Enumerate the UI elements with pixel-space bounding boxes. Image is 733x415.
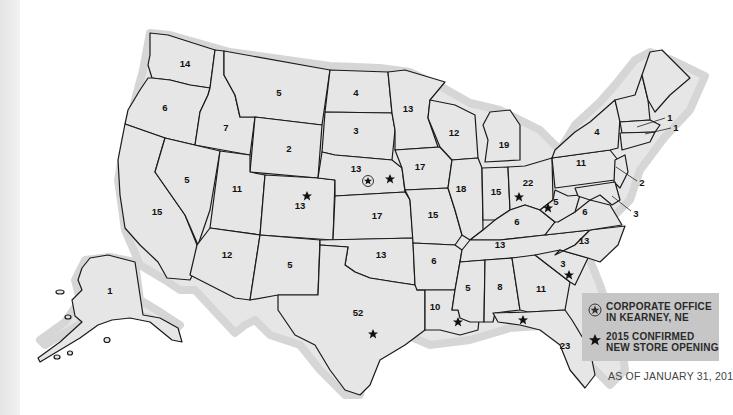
count-MI: 19 [499, 139, 510, 150]
count-KY: 6 [514, 216, 519, 227]
circled-star-icon [588, 303, 602, 317]
legend-corporate-office: CORPORATE OFFICE IN KEARNEY, NE [588, 301, 712, 323]
count-PA: 11 [576, 157, 587, 168]
legend-new-store: 2015 CONFIRMED NEW STORE OPENING [588, 331, 719, 353]
count-MN: 13 [403, 103, 414, 114]
count-WA: 14 [180, 58, 191, 69]
count-MS: 5 [465, 282, 471, 293]
count-OH: 22 [523, 177, 534, 188]
count-FL: 23 [560, 340, 571, 351]
star-icon [588, 333, 602, 347]
count-AZ: 12 [222, 249, 233, 260]
count-ND: 4 [353, 87, 359, 98]
count-OR: 6 [162, 102, 167, 113]
state-SD[interactable] [322, 112, 395, 160]
count-AK: 1 [107, 285, 113, 296]
map-legend: CORPORATE OFFICE IN KEARNEY, NE 2015 CON… [582, 293, 719, 361]
count-NM: 5 [287, 259, 293, 270]
count-CA: 15 [152, 206, 163, 217]
count-RI: 1 [673, 122, 679, 133]
count-CO: 13 [295, 200, 306, 211]
state-MI[interactable] [483, 110, 520, 162]
count-LA: 10 [430, 301, 441, 312]
count-WV: 5 [553, 196, 559, 207]
count-TN: 13 [495, 239, 506, 250]
count-UT: 11 [232, 183, 243, 194]
legend-corporate-office-label: CORPORATE OFFICE IN KEARNEY, NE [606, 301, 712, 323]
count-NY: 4 [594, 126, 600, 137]
count-NC: 13 [579, 235, 590, 246]
count-SD: 3 [353, 125, 358, 136]
count-IN: 15 [491, 186, 502, 197]
count-AL: 8 [497, 281, 502, 292]
as-of-date: AS OF JANUARY 31, 201 [608, 370, 733, 382]
count-OK: 13 [376, 249, 387, 260]
count-MO: 15 [428, 209, 439, 220]
count-VA: 6 [582, 206, 587, 217]
state-NY[interactable] [552, 100, 620, 158]
count-MD: 3 [633, 208, 638, 219]
count-NV: 5 [184, 174, 190, 185]
count-WY: 2 [286, 143, 291, 154]
state-AR[interactable] [413, 243, 462, 290]
count-SC: 3 [560, 258, 565, 269]
count-ID: 7 [223, 122, 228, 133]
count-TX: 52 [353, 307, 364, 318]
count-NJ: 2 [639, 177, 644, 188]
count-GA: 11 [536, 283, 547, 294]
count-MT: 5 [276, 87, 282, 98]
count-IA: 17 [415, 161, 426, 172]
legend-new-store-label: 2015 CONFIRMED NEW STORE OPENING [606, 331, 719, 353]
state-NM[interactable] [250, 235, 320, 300]
count-KS: 17 [372, 210, 383, 221]
count-WI: 12 [449, 127, 460, 138]
count-NE: 13 [351, 163, 362, 174]
count-AR: 6 [431, 255, 436, 266]
count-IL: 18 [456, 183, 467, 194]
